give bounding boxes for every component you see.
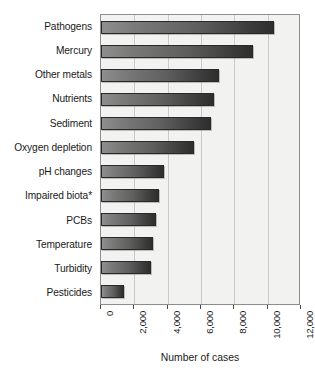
bar bbox=[101, 93, 214, 106]
bar-row bbox=[101, 208, 299, 232]
bar bbox=[101, 21, 274, 34]
bar bbox=[101, 285, 124, 298]
category-label: Sediment bbox=[0, 111, 96, 135]
x-tick-mark bbox=[133, 305, 134, 309]
x-tick-label: 8,000 bbox=[237, 311, 248, 334]
bar-chart: PathogensMercuryOther metalsNutrientsSed… bbox=[0, 0, 315, 377]
x-tick-mark bbox=[200, 305, 201, 309]
bar-series bbox=[101, 15, 299, 304]
x-tick-label: 10,000 bbox=[271, 311, 282, 339]
category-label: Mercury bbox=[0, 38, 96, 62]
category-label: Pesticides bbox=[0, 281, 96, 305]
x-tick-label: 2,000 bbox=[137, 311, 148, 334]
x-tick-mark bbox=[267, 305, 268, 309]
plot-area bbox=[100, 14, 300, 305]
bar-row bbox=[101, 39, 299, 63]
bar bbox=[101, 261, 151, 274]
bar-row bbox=[101, 280, 299, 304]
bar bbox=[101, 117, 211, 130]
bar-row bbox=[101, 15, 299, 39]
category-label: PCBs bbox=[0, 208, 96, 232]
category-axis-labels: PathogensMercuryOther metalsNutrientsSed… bbox=[0, 14, 96, 305]
x-axis: 02,0004,0006,0008,00010,00012,000 bbox=[100, 305, 300, 311]
x-tick-mark bbox=[167, 305, 168, 309]
x-tick-mark bbox=[233, 305, 234, 309]
bar-row bbox=[101, 111, 299, 135]
bar-row bbox=[101, 63, 299, 87]
bar-row bbox=[101, 159, 299, 183]
x-axis-title: Number of cases bbox=[100, 352, 300, 363]
bar bbox=[101, 189, 159, 202]
bar bbox=[101, 141, 194, 154]
x-tick-label: 6,000 bbox=[204, 311, 215, 334]
category-label: Other metals bbox=[0, 63, 96, 87]
bar bbox=[101, 165, 164, 178]
bar bbox=[101, 45, 253, 58]
category-label: Impaired biota* bbox=[0, 184, 96, 208]
bar-row bbox=[101, 232, 299, 256]
category-label: Turbidity bbox=[0, 257, 96, 281]
x-tick-label: 0 bbox=[104, 311, 115, 316]
x-tick-mark bbox=[300, 305, 301, 309]
bar-row bbox=[101, 87, 299, 111]
x-tick-label: 12,000 bbox=[304, 311, 315, 339]
bar-row bbox=[101, 184, 299, 208]
x-tick-mark bbox=[100, 305, 101, 309]
bar-row bbox=[101, 135, 299, 159]
category-label: Pathogens bbox=[0, 14, 96, 38]
bar bbox=[101, 69, 219, 82]
category-label: Nutrients bbox=[0, 87, 96, 111]
bar bbox=[101, 237, 153, 250]
x-tick-label: 4,000 bbox=[171, 311, 182, 334]
category-label: Oxygen depletion bbox=[0, 135, 96, 159]
bar bbox=[101, 213, 156, 226]
category-label: pH changes bbox=[0, 160, 96, 184]
bar-row bbox=[101, 256, 299, 280]
category-label: Temperature bbox=[0, 232, 96, 256]
